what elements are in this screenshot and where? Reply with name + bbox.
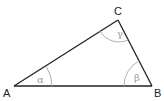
angle-label-beta: β <box>134 72 140 83</box>
angle-arc-alpha <box>46 66 52 86</box>
vertex-label-a: A <box>3 87 11 99</box>
edge-ac <box>14 20 118 86</box>
triangle-diagram: A B C α β γ <box>0 0 164 101</box>
vertex-label-c: C <box>114 5 122 17</box>
angle-label-alpha: α <box>37 74 44 85</box>
angle-label-gamma: γ <box>117 28 123 39</box>
vertex-label-b: B <box>154 87 161 99</box>
